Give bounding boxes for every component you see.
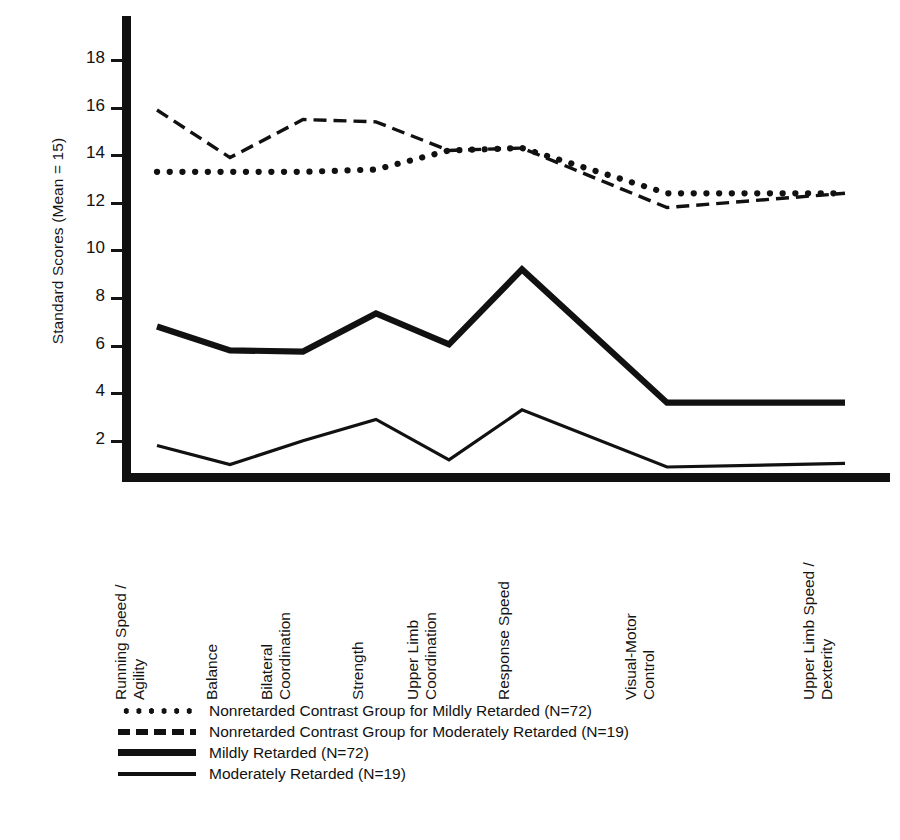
label-line-1: Strength xyxy=(349,641,366,700)
x-axis-label-text: Upper Limb Speed /Dexterity xyxy=(800,562,836,700)
legend-label: Moderately Retarded (N=19) xyxy=(209,765,406,782)
label-line-1: Visual-Motor xyxy=(622,613,639,700)
label-line-2: Coordination xyxy=(422,612,440,700)
x-axis-label-text: BilateralCoordination xyxy=(258,612,294,700)
legend-key-thick xyxy=(116,746,198,760)
legend-swatch-icon xyxy=(118,749,196,756)
legend-item-3: Moderately Retarded (N=19) xyxy=(116,763,876,784)
x-axis-label-text: Upper LimbCoordination xyxy=(404,612,440,700)
label-line-1: Balance xyxy=(203,644,220,700)
label-line-1: Upper Limb xyxy=(404,620,421,700)
x-axis-label-text: Visual-MotorControl xyxy=(622,613,658,700)
legend-label: Nonretarded Contrast Group for Moderatel… xyxy=(209,723,629,740)
label-line-2: Control xyxy=(640,613,658,700)
legend-swatch-icon xyxy=(118,772,196,776)
label-line-2: Coordination xyxy=(276,612,294,700)
legend-key-dotted xyxy=(116,704,198,718)
x-axis-label-text: Strength xyxy=(349,641,367,700)
x-axis-label-text: Running Speed /Agility xyxy=(112,585,148,700)
label-line-1: Bilateral xyxy=(258,644,275,700)
x-axis-label-text: Balance xyxy=(203,644,221,700)
plot-area xyxy=(0,0,900,500)
legend-item-2: Mildly Retarded (N=72) xyxy=(116,742,876,763)
legend-label: Mildly Retarded (N=72) xyxy=(209,744,369,761)
label-line-1: Upper Limb Speed / xyxy=(800,562,817,700)
legend-item-1: Nonretarded Contrast Group for Moderatel… xyxy=(116,721,876,742)
chart-figure: Standard Scores (Mean = 15) 181614121086… xyxy=(0,0,900,840)
label-line-2: Dexterity xyxy=(818,562,836,700)
series-line-3 xyxy=(157,410,845,467)
legend-item-0: Nonretarded Contrast Group for Mildly Re… xyxy=(116,700,876,721)
legend-key-dashed xyxy=(116,725,198,739)
series-line-2 xyxy=(157,269,845,402)
legend-label: Nonretarded Contrast Group for Mildly Re… xyxy=(209,702,592,719)
label-line-1: Response Speed xyxy=(495,581,512,700)
legend-key-thin xyxy=(116,767,198,781)
series-line-0 xyxy=(157,148,845,193)
label-line-1: Running Speed / xyxy=(112,585,129,700)
label-line-2: Agility xyxy=(130,585,148,700)
legend-swatch-icon xyxy=(120,708,194,714)
chart-legend: Nonretarded Contrast Group for Mildly Re… xyxy=(116,700,876,784)
legend-swatch-icon xyxy=(118,729,196,735)
x-axis-label-text: Response Speed xyxy=(495,581,513,700)
